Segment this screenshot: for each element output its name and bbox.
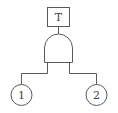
basic-event-1-label: 1 (18, 89, 25, 102)
top-event-label: T (55, 11, 63, 24)
fault-tree-diagram: T 1 2 (0, 0, 118, 113)
top-event: T (48, 8, 70, 27)
and-gate-icon (45, 34, 73, 62)
basic-event-2-label: 2 (93, 89, 100, 102)
event-2-connector (70, 63, 97, 85)
event-1-connector (22, 63, 48, 85)
basic-event-1: 1 (11, 85, 32, 106)
fault-tree-svg: T 1 2 (0, 0, 118, 113)
basic-event-2: 2 (86, 85, 107, 106)
